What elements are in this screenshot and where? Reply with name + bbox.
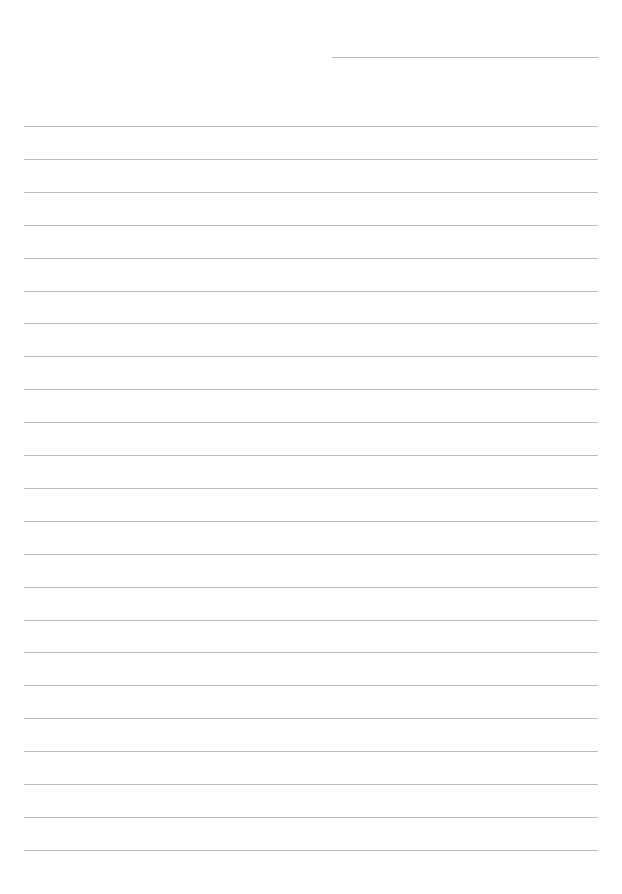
ruled-line <box>24 554 598 555</box>
ruled-line <box>24 291 598 292</box>
ruled-line <box>24 126 598 127</box>
ruled-line <box>24 159 598 160</box>
ruled-line <box>24 685 598 686</box>
ruled-line <box>24 850 598 851</box>
lined-paper-page <box>0 0 622 894</box>
ruled-line <box>24 521 598 522</box>
ruled-line <box>24 225 598 226</box>
ruled-line <box>24 817 598 818</box>
ruled-line <box>24 488 598 489</box>
header-name-line <box>332 57 598 58</box>
ruled-line <box>24 784 598 785</box>
ruled-line <box>24 422 598 423</box>
ruled-line <box>24 389 598 390</box>
ruled-line <box>24 652 598 653</box>
ruled-line <box>24 751 598 752</box>
ruled-line <box>24 258 598 259</box>
ruled-line <box>24 192 598 193</box>
ruled-line <box>24 455 598 456</box>
ruled-line <box>24 718 598 719</box>
ruled-line <box>24 587 598 588</box>
ruled-line <box>24 323 598 324</box>
ruled-line <box>24 620 598 621</box>
ruled-line <box>24 356 598 357</box>
